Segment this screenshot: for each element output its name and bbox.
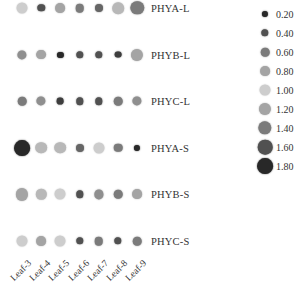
data-dot	[16, 188, 28, 200]
legend-dot	[260, 85, 271, 96]
data-dot	[95, 51, 102, 58]
data-dot	[37, 97, 46, 106]
data-dot	[75, 4, 84, 13]
legend-label: 0.60	[276, 47, 294, 58]
row-label: PHYC-S	[151, 236, 190, 247]
legend-label: 1.20	[276, 104, 294, 115]
legend-label: 1.00	[276, 85, 294, 96]
legend-dot	[261, 29, 268, 36]
data-dot	[114, 190, 123, 199]
data-dot	[132, 189, 142, 199]
data-dot	[115, 51, 122, 58]
row-label: PHYB-L	[151, 49, 190, 60]
data-dot	[55, 3, 65, 13]
legend-dot	[258, 121, 271, 134]
data-dot	[55, 236, 66, 247]
row-label: PHYB-S	[151, 189, 190, 200]
data-dot	[114, 237, 121, 244]
legend-dot	[257, 158, 273, 174]
data-dot	[76, 144, 84, 152]
row-label: PHYA-L	[151, 3, 190, 14]
data-dot	[36, 189, 46, 199]
data-dot	[114, 97, 123, 106]
data-dot	[17, 236, 28, 247]
legend-label: 1.80	[276, 161, 294, 172]
legend-dot	[259, 103, 271, 115]
data-dot	[57, 98, 64, 105]
data-dot	[130, 1, 143, 14]
data-dot	[17, 3, 28, 14]
column-label: Leaf-5	[47, 258, 72, 283]
legend-dot	[261, 48, 270, 57]
data-dot	[14, 140, 30, 156]
data-dot	[95, 97, 102, 104]
legend-label: 0.80	[276, 66, 294, 77]
data-dot	[76, 51, 83, 58]
column-label: Leaf-3	[8, 258, 33, 283]
data-dot	[55, 142, 67, 154]
data-dot	[133, 97, 142, 106]
column-label: Leaf-9	[124, 258, 149, 283]
legend-dot	[258, 140, 273, 155]
dot-plot-chart: PHYA-LPHYB-LPHYC-LPHYA-SPHYB-SPHYC-SLeaf…	[0, 0, 303, 303]
data-dot	[18, 97, 27, 106]
row-label: PHYA-S	[151, 142, 189, 153]
data-dot	[55, 189, 66, 200]
column-label: Leaf-6	[66, 258, 91, 283]
data-dot	[133, 237, 142, 246]
data-dot	[112, 2, 124, 14]
column-label: Leaf-8	[104, 258, 129, 283]
data-dot	[95, 237, 104, 246]
data-dot	[17, 50, 26, 59]
data-dot	[94, 190, 103, 199]
data-dot	[36, 236, 46, 246]
legend-dot	[262, 11, 268, 17]
legend-dot	[260, 66, 270, 76]
data-dot	[131, 49, 143, 61]
legend-label: 0.40	[276, 28, 294, 39]
data-dot	[57, 52, 63, 58]
data-dot	[76, 191, 83, 198]
legend-label: 1.40	[276, 123, 294, 134]
data-dot	[134, 145, 140, 151]
data-dot	[35, 142, 47, 154]
legend-label: 0.20	[276, 9, 294, 20]
data-dot	[76, 237, 83, 244]
data-dot	[95, 4, 103, 12]
data-dot	[36, 50, 46, 60]
data-dot	[76, 97, 83, 104]
row-label: PHYC-L	[151, 96, 190, 107]
data-dot	[37, 4, 44, 11]
legend-label: 1.60	[276, 142, 294, 153]
data-dot	[114, 144, 123, 153]
data-dot	[93, 142, 104, 153]
